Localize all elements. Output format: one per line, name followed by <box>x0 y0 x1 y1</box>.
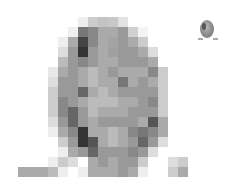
mosaic-cell <box>58 107 68 117</box>
mosaic-cell <box>78 37 88 47</box>
mosaic-cell <box>158 97 168 107</box>
mosaic-cell <box>38 137 48 147</box>
mosaic-cell <box>118 167 128 177</box>
mosaic-cell <box>68 127 78 137</box>
mosaic-cell <box>98 137 108 147</box>
mosaic-cell <box>138 127 148 137</box>
mosaic-cell <box>178 47 188 57</box>
mosaic-cell <box>18 77 28 87</box>
mosaic-cell <box>68 157 78 167</box>
mosaic-cell <box>18 147 28 157</box>
mosaic-cell <box>28 77 38 87</box>
mosaic-cell <box>118 147 128 157</box>
mosaic-cell <box>78 67 88 77</box>
mosaic-cell <box>58 77 68 87</box>
mosaic-cell <box>88 147 98 157</box>
mosaic-cell <box>88 77 98 87</box>
mosaic-cell <box>48 107 58 117</box>
mosaic-cell <box>18 87 28 97</box>
mosaic-cell <box>28 27 38 37</box>
mosaic-cell <box>18 67 28 77</box>
mosaic-cell <box>178 157 188 167</box>
mosaic-cell <box>88 27 98 37</box>
mosaic-cell <box>118 47 128 57</box>
mosaic-cell <box>78 57 88 67</box>
mosaic-cell <box>38 117 48 127</box>
mosaic-cell <box>128 117 138 127</box>
mosaic-cell <box>38 147 48 157</box>
mosaic-cell <box>28 97 38 107</box>
mosaic-cell <box>138 167 148 177</box>
mosaic-cell <box>138 17 148 27</box>
mosaic-cell <box>158 47 168 57</box>
mosaic-cell <box>178 137 188 147</box>
mosaic-cell <box>178 77 188 87</box>
mosaic-cell <box>28 57 38 67</box>
mosaic-cell <box>28 127 38 137</box>
mosaic-cell <box>148 137 158 147</box>
mosaic-cell <box>128 97 138 107</box>
mosaic-cell <box>128 77 138 87</box>
mosaic-cell <box>108 137 118 147</box>
mosaic-cell <box>148 67 158 77</box>
mosaic-cell <box>108 107 118 117</box>
mosaic-cell <box>128 37 138 47</box>
mosaic-cell <box>128 137 138 147</box>
mosaic-cell <box>118 17 128 27</box>
mosaic-cell <box>138 107 148 117</box>
mosaic-cell <box>148 17 158 27</box>
mosaic-cell <box>48 37 58 47</box>
mosaic-cell <box>118 27 128 37</box>
mosaic-cell <box>138 47 148 57</box>
mosaic-cell <box>178 127 188 137</box>
mosaic-cell <box>178 27 188 37</box>
mosaic-cell <box>178 167 188 177</box>
mosaic-cell <box>108 27 118 37</box>
mosaic-cell <box>58 167 68 177</box>
mosaic-cell <box>68 97 78 107</box>
mosaic-cell <box>88 117 98 127</box>
mosaic-cell <box>38 167 48 177</box>
mosaic-cell <box>38 87 48 97</box>
mosaic-cell <box>98 117 108 127</box>
mosaic-cell <box>38 67 48 77</box>
mosaic-cell <box>28 17 38 27</box>
mosaic-cell <box>128 67 138 77</box>
mosaic-cell <box>158 27 168 37</box>
mosaic-cell <box>108 77 118 87</box>
mosaic-cell <box>178 37 188 47</box>
mosaic-cell <box>158 127 168 137</box>
mosaic-cell <box>78 147 88 157</box>
mosaic-cell <box>178 57 188 67</box>
mosaic-cell <box>58 97 68 107</box>
mosaic-cell <box>178 107 188 117</box>
mosaic-cell <box>38 97 48 107</box>
mosaic-cell <box>18 97 28 107</box>
mosaic-cell <box>58 137 68 147</box>
mosaic-cell <box>48 147 58 157</box>
mosaic-cell <box>38 27 48 37</box>
mosaic-cell <box>128 157 138 167</box>
mosaic-cell <box>48 27 58 37</box>
mosaic-cell <box>148 27 158 37</box>
mosaic-cell <box>98 107 108 117</box>
mosaic-cell <box>118 37 128 47</box>
mosaic-cell <box>28 67 38 77</box>
mosaic-cell <box>148 127 158 137</box>
mosaic-cell <box>48 97 58 107</box>
mosaic-cell <box>68 47 78 57</box>
mosaic-cell <box>158 107 168 117</box>
mosaic-cell <box>38 157 48 167</box>
mosaic-cell <box>48 17 58 27</box>
mosaic-cell <box>138 137 148 147</box>
mosaic-cell <box>88 157 98 167</box>
mosaic-cell <box>48 87 58 97</box>
mosaic-cell <box>158 37 168 47</box>
mosaic-cell <box>58 57 68 67</box>
mosaic-cell <box>48 67 58 77</box>
mosaic-cell <box>158 87 168 97</box>
mosaic-cell <box>128 47 138 57</box>
mosaic-cell <box>68 147 78 157</box>
mosaic-cell <box>78 167 88 177</box>
mosaic-cell <box>128 107 138 117</box>
